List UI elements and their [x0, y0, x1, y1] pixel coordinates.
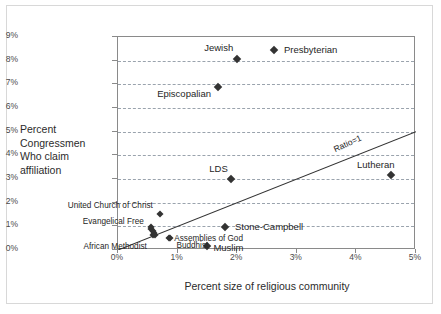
y-tick-label-1%: 1% [0, 219, 18, 229]
y-axis-title-line-3: Who claim [20, 150, 110, 164]
y-tick-label-0%: 0% [0, 243, 18, 253]
x-tick-mark-3% [296, 249, 297, 253]
gridline-4 [118, 155, 414, 156]
x-tick-label-4%: 4% [342, 252, 368, 262]
gridline-3 [118, 179, 414, 180]
y-tick-label-5%: 5% [0, 125, 18, 135]
x-tick-mark-4% [355, 249, 356, 253]
y-tick-label-4%: 4% [0, 148, 18, 158]
x-tick-label-3%: 3% [283, 252, 309, 262]
chart-frame: Percent Congressmen Who claim affiliatio… [6, 5, 433, 304]
y-tick-label-2%: 2% [0, 196, 18, 206]
gridline-8 [118, 61, 414, 62]
ratio-line-label: Ratio=1 [331, 133, 362, 154]
point-label-episcopalian: Episcopalian [157, 88, 211, 99]
y-tick-label-6%: 6% [0, 101, 18, 111]
point-label-buddhist: Buddhist [176, 241, 208, 250]
plot-area: Ratio=1 JewishEpiscopalianLDSLutheranUni… [117, 36, 415, 249]
x-tick-mark-5% [415, 249, 416, 253]
x-axis-title: Percent size of religious community [117, 280, 417, 292]
legend-entry-stone-campbell[interactable]: Stone-Campbell [222, 221, 303, 232]
point-label-lds: LDS [209, 163, 227, 174]
y-axis-title-line-4: affiliation [20, 164, 110, 178]
point-label-muslim: Muslim [213, 242, 243, 253]
legend-entry-label: Stone-Campbell [235, 221, 303, 232]
x-tick-label-2%: 2% [223, 252, 249, 262]
y-tick-label-8%: 8% [0, 54, 18, 64]
gridline-6 [118, 108, 414, 109]
gridline-7 [118, 84, 414, 85]
point-label-jewish: Jewish [204, 42, 233, 53]
legend-marker-icon [221, 222, 229, 230]
point-label-evangelical-free: Evangelical Free [83, 217, 144, 226]
legend-marker-icon [270, 45, 278, 53]
x-tick-label-5%: 5% [402, 252, 428, 262]
gridline-2 [118, 203, 414, 204]
x-tick-label-1%: 1% [164, 252, 190, 262]
legend-entry-presbyterian[interactable]: Presbyterian [271, 44, 337, 55]
y-tick-label-9%: 9% [0, 30, 18, 40]
gridline-5 [118, 132, 414, 133]
x-tick-label-0%: 0% [104, 252, 130, 262]
point-label-lutheran: Lutheran [357, 159, 395, 170]
data-point-jewish[interactable] [233, 55, 241, 63]
legend-entry-label: Presbyterian [284, 44, 337, 55]
y-tick-label-7%: 7% [0, 77, 18, 87]
data-point-united-church-of-christ[interactable] [156, 210, 163, 217]
y-tick-label-3%: 3% [0, 172, 18, 182]
point-label-united-church-of-christ: United Church of Christ [68, 201, 153, 210]
data-point-lutheran[interactable] [387, 170, 395, 178]
y-axis-title: Percent Congressmen Who claim affiliatio… [20, 123, 110, 177]
y-axis-title-line-2: Congressmen [20, 137, 110, 151]
point-label-african-methodist: African Methodist [84, 242, 147, 251]
y-axis-title-line-1: Percent [20, 123, 110, 137]
ratio-reference-line [118, 37, 416, 250]
data-point-lds[interactable] [227, 175, 235, 183]
